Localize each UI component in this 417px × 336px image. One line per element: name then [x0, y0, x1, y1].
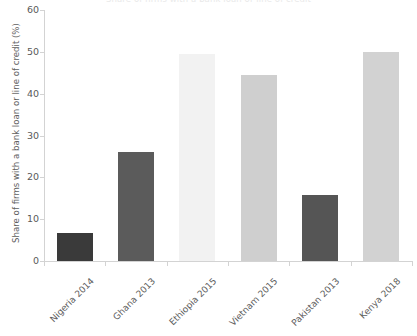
- bar[interactable]: [302, 195, 338, 261]
- chart-title-text: Share of firms with a bank loan or line …: [0, 0, 417, 5]
- bar[interactable]: [363, 52, 399, 261]
- x-tick-label: Pakistan 2013: [289, 276, 341, 328]
- x-tick-mark: [44, 261, 45, 266]
- y-tick-label: 20: [27, 171, 39, 182]
- x-tick-label: Nigeria 2014: [48, 276, 96, 324]
- bar[interactable]: [118, 152, 154, 261]
- x-tick-mark: [412, 261, 413, 266]
- y-tick-mark: [40, 136, 45, 137]
- x-tick-label: Kenya 2018: [358, 276, 403, 321]
- x-tick-mark: [228, 261, 229, 266]
- y-tick-mark: [40, 10, 45, 11]
- y-tick-label: 10: [27, 213, 39, 224]
- y-tick-mark: [40, 219, 45, 220]
- bar[interactable]: [57, 233, 93, 261]
- plot-area: 0102030405060 Nigeria 2014Ghana 2013Ethi…: [44, 10, 412, 261]
- x-tick-mark: [289, 261, 290, 266]
- bar[interactable]: [241, 75, 277, 261]
- x-tick-mark: [105, 261, 106, 266]
- x-tick-label: Ghana 2013: [111, 276, 157, 322]
- y-tick-label: 30: [27, 130, 39, 141]
- y-tick-label: 50: [27, 46, 39, 57]
- bar[interactable]: [179, 54, 215, 261]
- y-tick-mark: [40, 177, 45, 178]
- y-tick-mark: [40, 94, 45, 95]
- x-tick-label: Ethiopia 2015: [167, 276, 218, 327]
- y-tick-label: 60: [27, 4, 39, 15]
- y-axis-title: Share of firms with a bank loan or line …: [11, 8, 21, 258]
- chart-title-clipped: Share of firms with a bank loan or line …: [0, 0, 417, 5]
- y-tick-mark: [40, 52, 45, 53]
- bar-chart: Share of firms with a bank loan or line …: [0, 0, 417, 336]
- y-tick-label: 40: [27, 88, 39, 99]
- x-tick-mark: [167, 261, 168, 266]
- x-tick-label: Vietnam 2015: [228, 276, 280, 328]
- x-tick-mark: [351, 261, 352, 266]
- y-tick-label: 0: [33, 255, 39, 266]
